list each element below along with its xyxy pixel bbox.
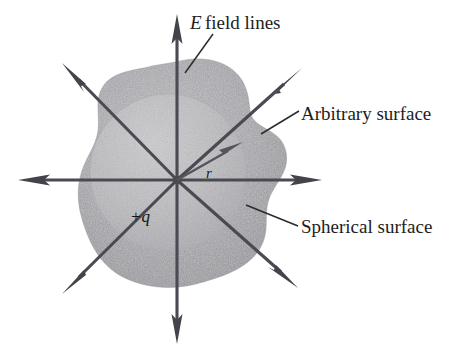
spherical-surface-label: Spherical surface bbox=[301, 216, 432, 237]
charge-label: +q bbox=[130, 207, 150, 226]
gauss-law-diagram: E field lines Arbitrary surface Spherica… bbox=[0, 0, 473, 353]
leader-line-arbitrary-surface bbox=[261, 111, 299, 134]
e-field-lines-symbol: E bbox=[189, 12, 202, 33]
radius-label: r bbox=[206, 165, 212, 181]
e-field-lines-label: field lines bbox=[205, 12, 280, 33]
arbitrary-surface-label: Arbitrary surface bbox=[301, 103, 431, 124]
figure-root: E field lines Arbitrary surface Spherica… bbox=[0, 0, 473, 353]
